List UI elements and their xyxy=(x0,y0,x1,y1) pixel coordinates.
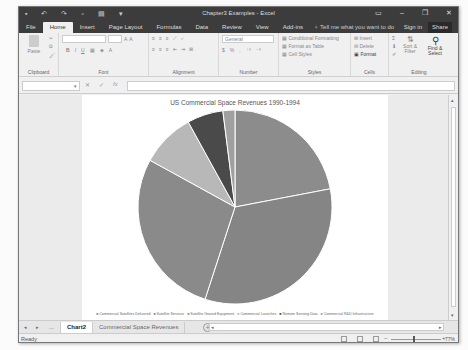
decrease-decimal-icon[interactable]: ⁻⁰ xyxy=(256,47,261,53)
scroll-down-icon[interactable]: ▾ xyxy=(451,312,454,318)
clear-icon[interactable]: ✐ xyxy=(392,51,396,57)
borders-icon[interactable]: ▦ xyxy=(90,47,95,53)
tab-data[interactable]: Data xyxy=(188,22,215,33)
legend-entry[interactable]: ■ Commercial Launches xyxy=(237,312,276,316)
underline-button[interactable]: U xyxy=(81,47,85,53)
pie-chart[interactable] xyxy=(130,107,340,307)
italic-button[interactable]: I xyxy=(75,47,76,53)
font-name-field[interactable] xyxy=(62,35,106,43)
restore-button[interactable]: ❐ xyxy=(422,9,428,17)
scroll-up-icon[interactable]: ▴ xyxy=(451,97,454,103)
merge-center-icon[interactable]: ⊞ xyxy=(189,46,193,52)
share-button[interactable]: Share xyxy=(428,22,452,33)
alignment-group-label: Alignment xyxy=(149,69,218,75)
autosum-button[interactable]: Σ xyxy=(392,35,396,41)
delete-cells-button[interactable]: ⊟ Delete xyxy=(354,43,374,49)
insert-function-button[interactable]: fx xyxy=(113,81,118,88)
decrease-indent-icon[interactable]: ⇤ xyxy=(173,46,177,52)
bold-button[interactable]: B xyxy=(66,47,70,53)
chart-title[interactable]: US Commercial Space Revenues 1990-1994 xyxy=(82,99,388,106)
enter-entry-button[interactable]: ✓ xyxy=(99,81,104,88)
zoom-level[interactable]: 77% xyxy=(445,336,455,342)
legend-entry[interactable]: ■ Satellite Services xyxy=(153,312,184,316)
formula-input[interactable] xyxy=(127,81,455,91)
prev-sheet-icon[interactable]: ◂ xyxy=(19,324,31,330)
tab-home[interactable]: Home xyxy=(43,22,73,33)
scroll-thumb[interactable] xyxy=(451,107,456,307)
sheet-tab-more[interactable]: ... xyxy=(43,322,61,333)
align-right-icon[interactable]: ≡ xyxy=(166,46,169,52)
sheet-tab-bar: ◂ ▸ ... Chart2 Commercial Space Revenues… xyxy=(19,320,458,333)
editing-group-label: Editing xyxy=(389,69,449,75)
status-bar: Ready – + 77% xyxy=(19,333,458,343)
zoom-slider[interactable] xyxy=(391,339,441,340)
tell-me-search[interactable]: ♀ Tell me what you want to do xyxy=(314,22,394,33)
currency-button[interactable]: $ xyxy=(222,47,225,53)
tab-formulas[interactable]: Formulas xyxy=(149,22,188,33)
horizontal-scrollbar[interactable]: ◂ ▸ xyxy=(209,323,444,331)
legend-entry[interactable]: ■ Commercial R&D Infrastructure xyxy=(321,312,374,316)
align-bottom-icon[interactable]: ≡ xyxy=(166,35,169,42)
align-center-icon[interactable]: ≡ xyxy=(159,46,162,52)
sheet-tab-commercial-space-revenues[interactable]: Commercial Space Revenues xyxy=(93,322,185,333)
font-size-field[interactable] xyxy=(108,35,122,43)
increase-indent-icon[interactable]: ⇥ xyxy=(181,46,185,52)
format-as-table-button[interactable]: ▦ Format as Table xyxy=(282,43,324,49)
chevron-down-icon[interactable]: ▾ xyxy=(74,83,77,89)
tab-view[interactable]: View xyxy=(249,22,276,33)
ribbon-display-options-button[interactable]: ▭ xyxy=(375,9,382,17)
font-color-icon[interactable]: A xyxy=(109,47,112,53)
scroll-right-icon[interactable]: ▸ xyxy=(439,324,442,330)
legend-entry[interactable]: ■ Commercial Satellites Delivered xyxy=(96,312,150,316)
align-middle-icon[interactable]: ≡ xyxy=(159,35,162,42)
increase-font-icon[interactable]: A xyxy=(124,36,127,42)
styles-group: ▦ Conditional Formatting ▦ Format as Tab… xyxy=(279,33,351,76)
align-left-icon[interactable]: ≡ xyxy=(152,46,155,52)
copy-icon[interactable]: ⧉ xyxy=(49,43,55,50)
paste-icon[interactable] xyxy=(29,35,39,47)
zoom-slider-knob[interactable] xyxy=(413,336,415,343)
tab-file[interactable]: File xyxy=(19,22,43,33)
next-sheet-icon[interactable]: ▸ xyxy=(31,324,43,330)
normal-view-icon[interactable] xyxy=(341,336,347,342)
minimize-button[interactable]: – xyxy=(400,9,404,17)
decrease-font-icon[interactable]: A xyxy=(129,36,132,42)
find-select-button[interactable]: Find & Select xyxy=(427,46,443,56)
vertical-scrollbar[interactable]: ▴ ▾ xyxy=(448,95,458,320)
legend-entry[interactable]: ■ Satellite Ground Equipment xyxy=(187,312,234,316)
fill-icon[interactable]: ⬇ xyxy=(392,43,396,49)
insert-cells-button[interactable]: ⊞ Insert xyxy=(354,35,372,41)
cancel-entry-button[interactable]: ✕ xyxy=(85,81,90,88)
tab-insert[interactable]: Insert xyxy=(73,22,102,33)
tab-review[interactable]: Review xyxy=(215,22,249,33)
wrap-text-icon[interactable]: ⤶ xyxy=(181,35,184,42)
name-box[interactable]: ▾ xyxy=(22,81,80,91)
zoom-out-icon[interactable]: – xyxy=(384,335,387,341)
align-top-icon[interactable]: ≡ xyxy=(152,35,155,42)
page-break-view-icon[interactable] xyxy=(373,336,379,342)
tab-add-ins[interactable]: Add-ins xyxy=(276,22,310,33)
format-cells-button[interactable]: ▣ Format xyxy=(354,51,376,57)
orientation-icon[interactable]: ⟋ xyxy=(173,35,177,42)
scroll-left-icon[interactable]: ◂ xyxy=(211,324,214,330)
close-button[interactable]: ✕ xyxy=(446,9,452,17)
increase-decimal-icon[interactable]: ⁺⁰ xyxy=(246,47,251,53)
sheet-tab-chart2[interactable]: Chart2 xyxy=(61,322,93,333)
fill-color-icon[interactable]: ◈ xyxy=(100,47,104,53)
paste-button[interactable]: Paste xyxy=(28,48,41,54)
format-painter-icon[interactable]: 🖌 xyxy=(49,52,55,58)
sort-filter-button[interactable]: Sort & Filter xyxy=(403,44,417,54)
page-layout-view-icon[interactable] xyxy=(357,336,363,342)
cell-styles-button[interactable]: ▦ Cell Styles xyxy=(282,51,312,57)
conditional-formatting-button[interactable]: ▦ Conditional Formatting xyxy=(282,35,339,41)
percent-button[interactable]: % xyxy=(230,47,234,53)
legend-entry[interactable]: ■ Remote Sensing Data xyxy=(279,312,317,316)
comma-button[interactable]: , xyxy=(239,47,240,53)
formula-bar: ▾ ✕ ✓ fx xyxy=(19,78,458,94)
cut-icon[interactable]: ✂ xyxy=(49,35,55,41)
number-format-dropdown[interactable]: General xyxy=(222,35,274,43)
sign-in-link[interactable]: Sign in xyxy=(404,22,422,33)
tab-page-layout[interactable]: Page Layout xyxy=(102,22,150,33)
chart-area[interactable]: US Commercial Space Revenues 1990-1994 ■… xyxy=(82,95,388,320)
chart-legend[interactable]: ■ Commercial Satellites Delivered■ Satel… xyxy=(82,312,388,316)
